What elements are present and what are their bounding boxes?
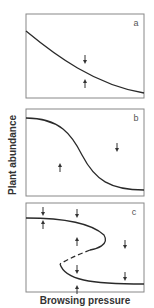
panel-a-label: a — [133, 18, 138, 28]
panel-b-frame — [26, 109, 144, 196]
lower-stable-branch — [60, 264, 144, 284]
panel-b-label: b — [133, 113, 138, 123]
panel-c: c — [26, 203, 144, 294]
figure-canvas: Plant abundance a b c Browsing pressure — [0, 0, 154, 308]
panel-c-label: c — [132, 207, 137, 217]
threshold-curve — [26, 118, 144, 190]
panel-c-frame — [26, 203, 144, 292]
unstable-branch — [60, 250, 90, 264]
x-axis-label: Browsing pressure — [40, 295, 131, 306]
panel-b: b — [26, 109, 144, 196]
y-axis-label: Plant abundance — [7, 115, 18, 195]
upper-stable-branch — [26, 218, 105, 250]
panel-a: a — [26, 14, 144, 98]
